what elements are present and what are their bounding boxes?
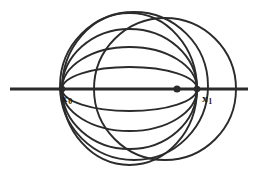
label-x1: x1 — [202, 93, 213, 106]
x1-point-marker — [194, 86, 200, 92]
geometry-diagram-svg — [0, 0, 255, 174]
label-x0: x0 — [62, 93, 73, 106]
center-large-circle — [60, 12, 208, 160]
outer-circles — [60, 12, 236, 160]
label-x0-subscript: 0 — [68, 97, 73, 106]
midpoint-dot-marker — [173, 85, 180, 92]
label-x1-base: x — [202, 92, 208, 104]
figure-canvas: x0 x1 — [0, 0, 255, 174]
label-x0-base: x — [62, 92, 68, 104]
label-x1-subscript: 1 — [208, 97, 213, 106]
